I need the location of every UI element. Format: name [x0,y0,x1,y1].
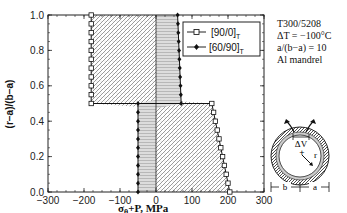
data-point [219,146,223,150]
open-square-marker-icon [194,30,199,35]
data-point [226,181,230,185]
x-tick-label: 200 [220,195,237,206]
data-point [89,66,93,70]
data-point [89,101,93,105]
x-tick-label: −200 [73,195,96,206]
data-point [211,110,215,114]
data-point [215,128,219,132]
y-tick-label: 0.6 [30,80,44,91]
delta-t-label: ΔT = −100°C [277,30,331,42]
legend: [90/0]T [60/90]T [183,22,260,56]
material-label: T300/5208 [277,18,331,30]
cylinder-diagram: ΔV + r b a [271,119,329,192]
data-point [228,190,232,194]
parameters-annotation: T300/5208 ΔT = −100°C a/(b−a) = 10 Al ma… [277,18,331,66]
data-point [217,137,221,141]
a-label: a [313,182,317,192]
data-point [89,48,93,52]
data-point [89,13,93,17]
y-tick-label: 0.8 [30,45,44,56]
data-point [89,92,93,96]
y-tick-label: 0.4 [30,116,44,127]
data-point [210,101,214,105]
y-tick-label: 0.0 [30,187,44,198]
mandrel-label: Al mandrel [277,54,331,66]
data-point [89,57,93,61]
data-point [89,84,93,88]
data-point [89,39,93,43]
data-point [220,154,224,158]
y-tick-label: 0.2 [30,151,44,162]
x-tick-label: 300 [256,195,273,206]
data-point [222,163,226,167]
data-point [89,75,93,79]
data-point [213,119,217,123]
y-tick-label: 1.0 [30,10,44,21]
y-axis-label: (r−a)/(b−a) [4,80,15,129]
b-label: b [283,182,288,192]
x-tick-label: 100 [184,195,201,206]
data-point [89,22,93,26]
ratio-label: a/(b−a) = 10 [277,42,331,54]
svg-text:+: + [299,148,304,158]
legend-label-60-90: [60/90] [209,42,240,53]
legend-label-90-0: [90/0] [211,27,236,38]
data-point [224,172,228,176]
data-point [89,31,93,35]
r-label: r [314,150,317,160]
